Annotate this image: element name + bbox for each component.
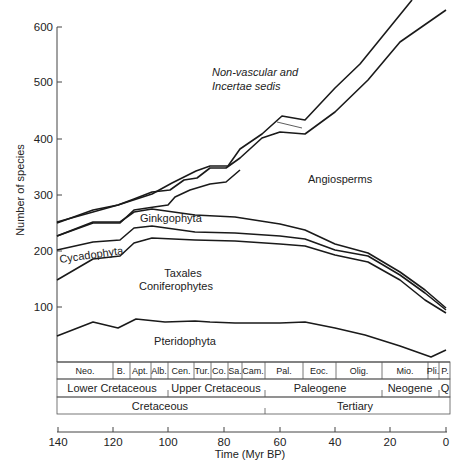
nonvascular-label-line2: Incertae sedis [212,80,281,92]
period-cretaceous: Cretaceous [132,400,189,412]
stage-eocene: Eoc. [310,366,328,376]
ginkgophyta-label: Ginkgophyta [140,212,203,224]
x-tick-120: 120 [103,436,122,448]
stage-coniacian: Co. [212,366,226,376]
x-ticks: 140 120 100 80 60 40 20 0 [48,427,449,448]
y-tick-200: 200 [34,245,53,257]
stage-neocomian: Neo. [75,366,94,376]
stage-pliocene: Pli. [427,366,440,376]
angiosperms-line [57,10,446,223]
epoch-quaternary: Q [441,382,450,394]
curves [57,0,446,357]
x-tick-40: 40 [329,436,342,448]
pteridophyta-line [57,319,446,357]
pteridophyta-label: Pteridophyta [154,335,217,347]
epoch-upper-cretaceous: Upper Cretaceous [171,382,261,394]
x-tick-100: 100 [158,436,177,448]
period-tertiary: Tertiary [337,400,374,412]
stage-paleocene: Pal. [276,366,292,376]
cycadophyta-line [57,226,446,310]
stage-aptian: Apt. [132,366,148,376]
x-tick-20: 20 [384,436,397,448]
x-tick-140: 140 [48,436,67,448]
stage-turonian: Tur. [194,366,209,376]
x-tick-80: 80 [218,436,231,448]
taxales-label: Taxales [164,267,202,279]
stage-campanian: Cam. [242,366,264,376]
epoch-lower-cretaceous: Lower Cretaceous [67,382,157,394]
stage-albian: Alb. [151,366,167,376]
angiosperms-label: Angiosperms [308,173,373,185]
y-tick-400: 400 [34,133,53,145]
stage-miocene: Mio. [396,366,413,376]
y-tick-500: 500 [34,76,53,88]
y-ticks: 600 500 400 300 200 100 [34,21,62,313]
y-tick-600: 600 [34,21,53,33]
nonvascular-line [57,0,412,222]
nonvascular-label-line1: Non-vascular and [212,66,299,78]
x-tick-60: 60 [274,436,287,448]
species-diversity-chart: 600 500 400 300 200 100 Number of specie… [0,0,470,469]
epoch-paleogene: Paleogene [294,382,347,394]
y-tick-100: 100 [34,301,53,313]
stage-cenomanian: Cen. [171,366,190,376]
y-axis-label: Number of species [14,144,26,236]
x-tick-0: 0 [443,436,449,448]
x-axis-label: Time (Myr BP) [215,448,285,460]
label-pointer [277,122,302,128]
y-tick-300: 300 [34,189,53,201]
ginkgophyta-line [57,209,446,308]
stage-barremian: B. [117,366,126,376]
stage-oligocene: Olig. [350,366,369,376]
timescale: Neo. B. Apt. Alb. Cen. Tur. Co. Sa. Cam.… [57,362,450,414]
coniferophytes-label: Coniferophytes [139,280,213,292]
stage-santonian: Sa. [228,366,242,376]
stage-pleistocene: P. [441,366,448,376]
epoch-neogene: Neogene [388,382,433,394]
